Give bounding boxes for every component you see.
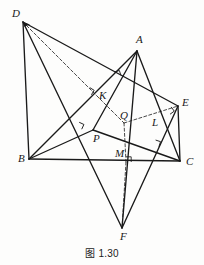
right-angle-on-PC [154,140,161,147]
geometry-diagram: DABCEFKQPLM [0,0,204,265]
vertex-label-A: A [135,33,143,45]
vertex-label-B: B [18,152,25,164]
segment-DQ [23,22,124,123]
segment-AC [137,51,180,161]
vertex-label-F: F [119,230,127,242]
vertex-label-P: P [92,132,100,144]
segment-DF [23,22,122,228]
right-angle-at-K [87,88,94,95]
arrowheads-layer [23,22,30,27]
vertex-label-E: E [181,96,189,108]
vertex-label-M: M [114,147,125,159]
segment-BP [29,130,93,159]
vertex-label-L: L [151,116,158,128]
vertex-label-K: K [98,89,107,101]
right-angle-near-P [77,122,84,129]
vertex-label-C: C [186,155,194,167]
figure-caption: 图 1.30 [0,245,204,260]
segment-BC [29,159,180,161]
vertex-label-D: D [11,7,20,19]
vertex-labels-layer: DABCEFKQPLM [11,7,194,242]
segment-PC [93,130,180,161]
arrowhead-at-D [23,22,30,27]
vertex-label-Q: Q [120,109,128,121]
segment-EC [178,106,180,161]
segment-QM [124,123,126,162]
segment-DB [23,22,29,159]
figure-container: DABCEFKQPLM 图 1.30 [0,0,204,265]
